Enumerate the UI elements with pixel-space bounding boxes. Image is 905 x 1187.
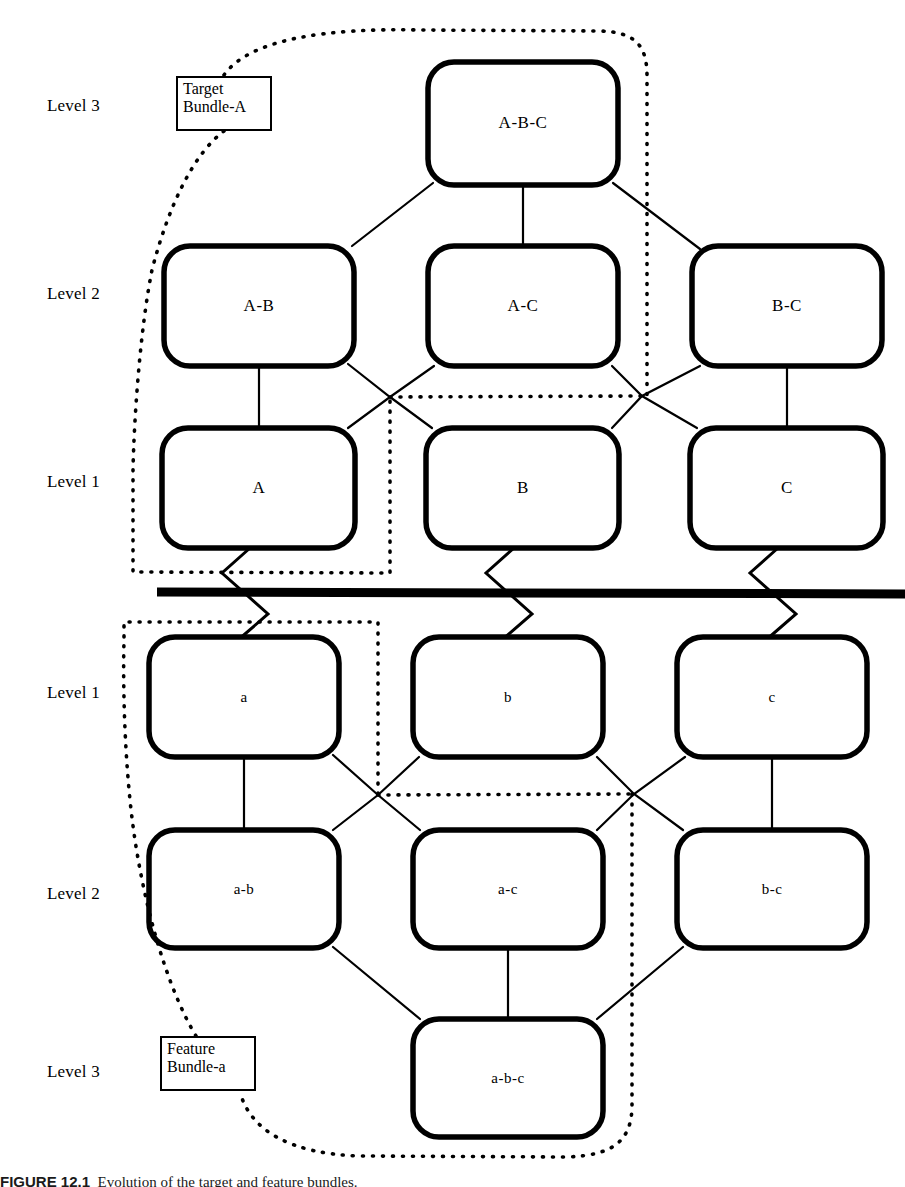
figure-caption: FIGURE 12.1 Evolution of the target and … [0, 1172, 905, 1187]
callout-feature-bundle: Feature Bundle-a [160, 1036, 256, 1091]
callout-target-bundle: Target Bundle-A [176, 76, 272, 131]
boundary-upper-mid-horizontal [390, 396, 642, 397]
node-label-ac-lower: a-c [498, 881, 518, 898]
section-divider-line [157, 592, 905, 594]
diagram-canvas [0, 0, 905, 1187]
level-label-lower-3: Level 3 [47, 1062, 100, 1082]
edge-bc-b [612, 366, 700, 428]
callout-feature-line2: Bundle-a [167, 1058, 250, 1076]
figure-caption-label: FIGURE 12.1 [0, 1173, 90, 1187]
edge-ab-abc [333, 947, 420, 1019]
level-label-upper-2: Level 2 [47, 284, 100, 304]
node-label-c-lower: c [768, 689, 775, 706]
node-label-a: A [253, 478, 266, 498]
node-label-bc-lower: b-c [762, 881, 783, 898]
boundary-lower-mid-horizontal [378, 794, 632, 795]
node-label-ab-lower: a-b [234, 881, 255, 898]
node-label-b: B [517, 478, 529, 498]
callout-target-line1: Target [183, 80, 266, 98]
level-label-upper-1: Level 1 [47, 472, 100, 492]
callout-target-line2: Bundle-A [183, 98, 266, 116]
node-label-c: C [781, 478, 793, 498]
level-label-lower-1: Level 1 [47, 683, 100, 703]
node-label-abc-lower: a-b-c [491, 1070, 524, 1087]
node-label-abc: A-B-C [499, 113, 548, 133]
level-label-upper-3: Level 3 [47, 96, 100, 116]
edge-abc-ab [352, 183, 433, 246]
figure-caption-body: Evolution of the target and feature bund… [98, 1174, 358, 1187]
node-label-b-lower: b [504, 689, 512, 706]
node-label-ab: A-B [244, 296, 275, 316]
node-label-bc: B-C [772, 296, 802, 316]
edge-abc-bc [613, 183, 700, 249]
node-label-ac: A-C [508, 296, 539, 316]
level-label-lower-2: Level 2 [47, 884, 100, 904]
figure-root: Level 3 Level 2 Level 1 Level 1 Level 2 … [0, 0, 905, 1187]
edge-bc-abc [597, 947, 683, 1019]
node-label-a-lower: a [240, 689, 247, 706]
callout-feature-line1: Feature [167, 1040, 250, 1058]
